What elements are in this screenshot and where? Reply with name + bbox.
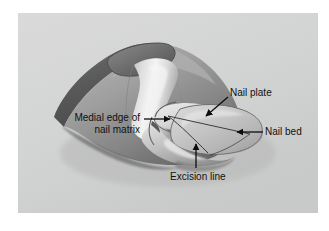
label-nail-bed: Nail bed (265, 126, 302, 138)
figure-root: Nail plate Nail bed Medial edge of nail … (0, 0, 329, 231)
label-nail-plate: Nail plate (230, 87, 272, 99)
label-medial-edge-of-nail-matrix: Medial edge of nail matrix (60, 112, 140, 136)
label-medial-edge-line-2: nail matrix (60, 124, 140, 136)
label-excision-line: Excision line (170, 171, 226, 183)
label-medial-edge-line-1: Medial edge of (60, 112, 140, 124)
